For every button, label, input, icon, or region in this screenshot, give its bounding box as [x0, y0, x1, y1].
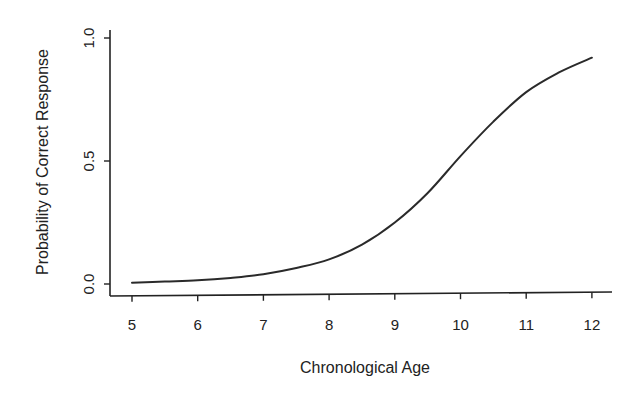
y-axis: 0.00.51.0 — [80, 28, 110, 296]
x-tick-label: 12 — [584, 316, 601, 333]
x-axis-title: Chronological Age — [300, 359, 430, 376]
x-axis-line — [110, 292, 612, 296]
probability-curve — [132, 58, 592, 283]
y-tick-label: 0.5 — [80, 151, 97, 172]
x-tick-label: 5 — [128, 316, 136, 333]
y-tick-label: 0.0 — [80, 274, 97, 295]
x-tick-label: 8 — [325, 316, 333, 333]
y-axis-title: Probability of Correct Response — [34, 49, 51, 275]
x-tick-label: 10 — [452, 316, 469, 333]
y-tick-label: 1.0 — [80, 28, 97, 49]
x-tick-label: 7 — [259, 316, 267, 333]
x-tick-label: 9 — [391, 316, 399, 333]
x-tick-label: 11 — [518, 316, 534, 333]
x-tick-label: 6 — [194, 316, 202, 333]
plot-area — [132, 58, 592, 283]
x-axis: 56789101112 — [110, 292, 612, 333]
logistic-curve-chart: 0.00.51.0 56789101112 Chronological Age … — [0, 0, 642, 394]
